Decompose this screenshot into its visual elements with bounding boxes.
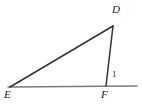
vertex-label-D: D	[112, 4, 120, 15]
angle-label-1: 1	[112, 70, 117, 79]
vertex-label-F: F	[101, 89, 108, 100]
baseline-segment-EF-extended	[8, 86, 137, 87]
geometry-figure: D E F 1	[0, 0, 142, 105]
vertex-label-E: E	[4, 89, 11, 100]
geometry-canvas	[0, 0, 142, 105]
segment-ED	[10, 26, 113, 87]
